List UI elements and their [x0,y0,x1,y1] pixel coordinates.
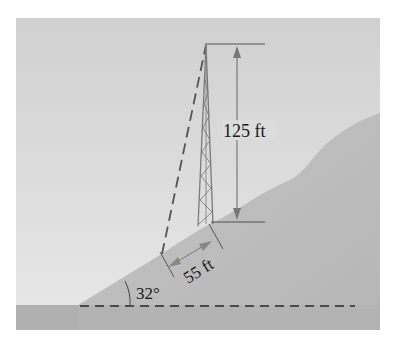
tower-hill-diagram: 32° 125 ft 55 ft [0,0,400,348]
tower-height-label: 125 ft [223,121,266,141]
slope-angle-label: 32° [136,284,160,303]
